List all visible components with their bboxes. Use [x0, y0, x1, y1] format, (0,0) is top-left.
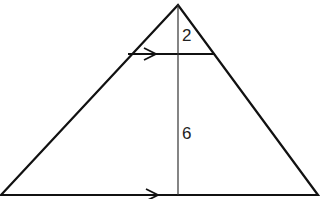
lower-height-label: 6 [182, 124, 191, 143]
top-height-label: 2 [182, 26, 191, 45]
similar-triangles-diagram: 2 6 [0, 0, 332, 199]
outer-triangle [1, 5, 318, 195]
